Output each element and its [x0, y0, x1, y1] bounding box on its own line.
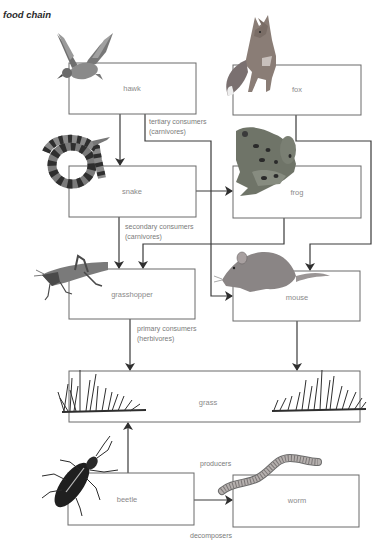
fox-icon [226, 15, 276, 96]
node-label: hawk [123, 84, 141, 93]
svg-text:primary consumers: primary consumers [137, 325, 197, 333]
node-grass: grass [69, 371, 360, 422]
node-beetle: beetle [68, 473, 194, 525]
node-label: mouse [286, 293, 309, 302]
node-label: fox [292, 85, 302, 94]
node-label: beetle [117, 495, 137, 504]
node-label: worm [287, 496, 306, 505]
svg-text:secondary consumers: secondary consumers [125, 223, 194, 231]
food-chain-diagram: hawk fox snake frog grasshopper mouse gr… [0, 0, 382, 544]
node-label: grass [199, 398, 218, 407]
svg-text:(carnivores): (carnivores) [125, 233, 162, 241]
svg-text:(herbivores): (herbivores) [137, 335, 174, 343]
svg-text:tertiary consumers: tertiary consumers [149, 118, 207, 126]
svg-text:(carnivores): (carnivores) [149, 128, 186, 136]
annotation-tertiary-consumers: tertiary consumers (carnivores) [149, 118, 207, 136]
node-label: grasshopper [111, 290, 153, 299]
node-label: snake [122, 187, 142, 196]
annotation-producers: producers [200, 460, 232, 468]
annotation-secondary-consumers: secondary consumers (carnivores) [125, 223, 194, 241]
annotation-primary-consumers: primary consumers (herbivores) [137, 325, 197, 343]
node-label: frog [291, 188, 304, 197]
annotation-decomposers: decomposers [190, 532, 233, 540]
